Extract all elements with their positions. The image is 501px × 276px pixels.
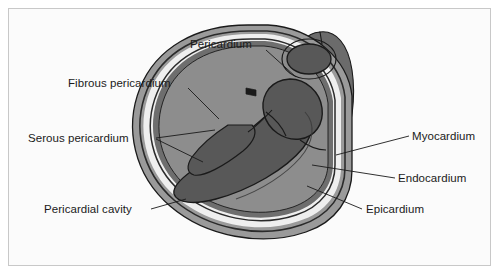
label-endocardium: Endocardium [398, 172, 466, 184]
label-fibrous-pericardium: Fibrous pericardium [68, 77, 171, 89]
label-epicardium: Epicardium [366, 203, 424, 215]
label-pericardium: Pericardium [190, 38, 252, 50]
heart-illustration [133, 25, 354, 239]
label-serous-pericardium: Serous pericardium [28, 132, 129, 144]
label-pericardial-cavity: Pericardial cavity [44, 203, 132, 215]
figure-page: Pericardium Fibrous pericardium Serous p… [0, 0, 501, 276]
label-myocardium: Myocardium [412, 130, 475, 142]
pericardium-diagram: Pericardium Fibrous pericardium Serous p… [0, 0, 501, 276]
vessel-cross-section [287, 44, 331, 74]
